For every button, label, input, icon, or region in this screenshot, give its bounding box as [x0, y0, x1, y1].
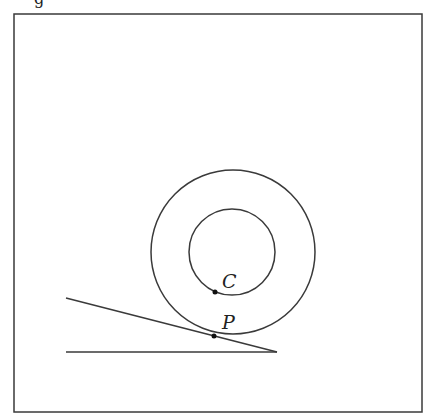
point-p-label: P [221, 311, 236, 333]
point-p-dot [212, 334, 217, 339]
figure-canvas: g C P [0, 0, 437, 414]
caption-fragment: g [34, 0, 44, 8]
point-c-label: C [222, 270, 237, 292]
outer-circle [151, 170, 315, 334]
point-c-dot [213, 290, 218, 295]
